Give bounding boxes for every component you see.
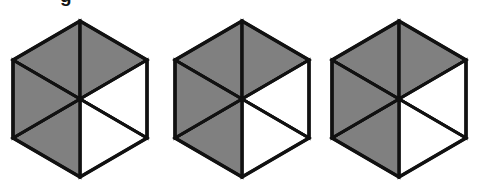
figure-canvas: g (0, 0, 477, 192)
hexagon-shape (13, 21, 147, 177)
hexagon-shape (175, 21, 309, 177)
hexagon-diagram (0, 0, 477, 192)
hexagon-shape (332, 21, 466, 177)
hexagons-group (13, 21, 466, 177)
